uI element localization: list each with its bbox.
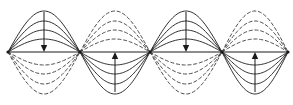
wave-curve-lobe-3-lower-2 xyxy=(150,52,222,84)
node-point-node-5 xyxy=(286,50,289,53)
standing-wave-figure xyxy=(0,0,293,105)
motion-arrow-2 xyxy=(112,52,118,92)
wave-curve-lobe-2-upper-2 xyxy=(80,21,150,52)
motion-arrow-1 xyxy=(41,12,47,52)
arrow-head-up-icon xyxy=(252,52,258,59)
wave-curve-lobe-4-upper-2 xyxy=(222,21,288,52)
node-point-node-3 xyxy=(148,50,151,53)
arrow-head-up-icon xyxy=(112,52,118,59)
wave-diagram-canvas xyxy=(0,0,293,105)
wave-curve-lobe-1-lower-4 xyxy=(8,52,80,65)
arrow-head-down-icon xyxy=(41,45,47,52)
wave-curve-lobe-1-lower-2 xyxy=(8,52,80,84)
arrow-head-down-icon xyxy=(183,45,189,52)
wave-curve-lobe-4-upper-4 xyxy=(222,39,288,52)
node-point-node-4 xyxy=(220,50,223,53)
motion-arrow-4 xyxy=(252,52,258,92)
node-point-node-1 xyxy=(6,50,9,53)
wave-curve-lobe-3-lower-4 xyxy=(150,52,222,65)
motion-arrow-3 xyxy=(183,12,189,52)
node-point-node-2 xyxy=(78,50,81,53)
wave-curve-lobe-2-upper-4 xyxy=(80,39,150,52)
